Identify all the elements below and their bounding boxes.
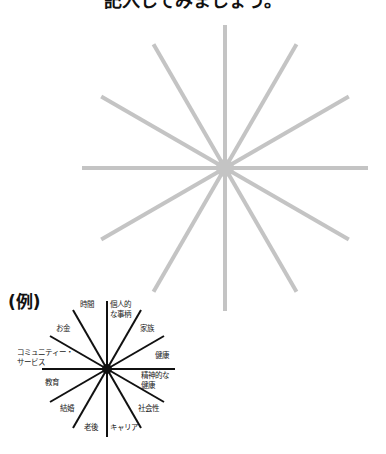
small-wheel-hub — [102, 364, 112, 374]
label-time: 時間 — [80, 300, 94, 309]
label-mental-health-2: 健康 — [141, 381, 155, 390]
label-career: キャリア — [110, 423, 138, 432]
label-community-1: コミュニティー・ — [17, 348, 73, 357]
label-education: 教育 — [45, 378, 59, 387]
label-marriage: 結婚 — [60, 404, 74, 413]
label-money: お金 — [56, 324, 70, 333]
label-sociality: 社会性 — [138, 404, 159, 413]
example-label: (例) — [8, 288, 41, 313]
label-community-2: サービス — [17, 358, 45, 367]
large-wheel-hub — [216, 159, 234, 177]
label-personal-1: 個人的 — [110, 300, 131, 309]
label-personal-2: な事柄 — [110, 310, 131, 319]
label-health: 健康 — [155, 351, 169, 360]
label-family: 家族 — [140, 324, 154, 333]
label-retirement: 老後 — [84, 423, 98, 432]
label-mental-health-1: 精神的な — [141, 371, 169, 380]
